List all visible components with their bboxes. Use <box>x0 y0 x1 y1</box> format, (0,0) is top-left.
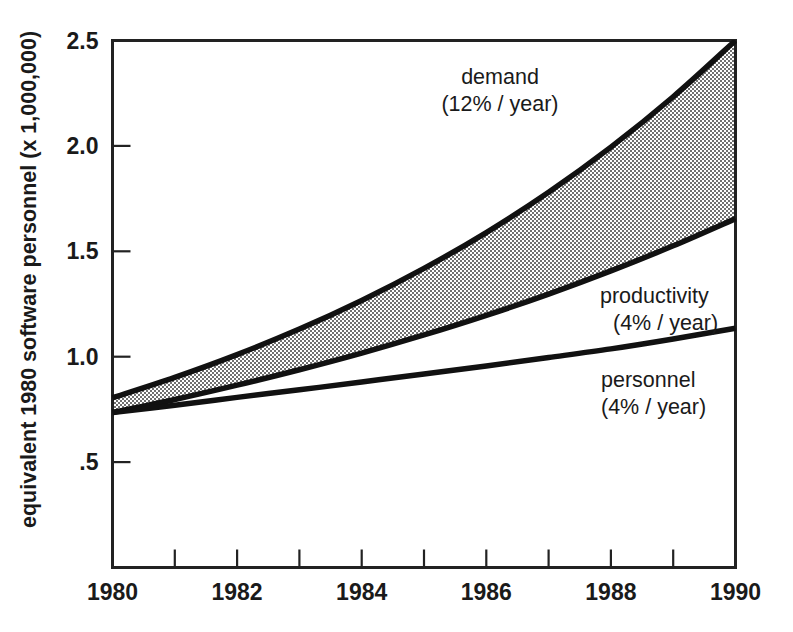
y-axis-tick-labels: .51.01.52.02.5 <box>67 28 99 476</box>
x-tick-label-1984: 1984 <box>336 579 387 605</box>
y-tick-label-.5: .5 <box>79 449 98 475</box>
y-tick-label-2.5: 2.5 <box>67 28 99 54</box>
x-axis-tick-labels: 198019821984198619881990 <box>87 579 761 605</box>
x-tick-label-1982: 1982 <box>212 579 263 605</box>
annotation-personnel-label: personnel <box>601 368 695 392</box>
x-tick-label-1988: 1988 <box>585 579 636 605</box>
y-tick-label-1.0: 1.0 <box>67 344 99 370</box>
y-tick-label-2.0: 2.0 <box>67 133 99 159</box>
chart-svg: .51.01.52.02.5 198019821984198619881990 … <box>0 0 793 632</box>
y-tick-label-1.5: 1.5 <box>67 238 99 264</box>
x-tick-label-1986: 1986 <box>461 579 512 605</box>
x-tick-label-1980: 1980 <box>87 579 138 605</box>
annotation-demand-label: demand <box>461 65 539 89</box>
annotation-personnel-rate: (4% / year) <box>601 395 706 419</box>
shaded-region-demand-vs-productivity <box>113 41 736 413</box>
chart-container: .51.01.52.02.5 198019821984198619881990 … <box>0 0 793 632</box>
x-axis-ticks <box>175 550 673 568</box>
y-axis-title: equivalent 1980 software personnel (x 1,… <box>17 31 41 528</box>
annotation-productivity-label: productivity <box>600 284 709 308</box>
annotation-productivity-rate: (4% / year) <box>613 311 718 335</box>
x-tick-label-1990: 1990 <box>710 579 761 605</box>
annotation-demand-rate: (12% / year) <box>441 92 558 116</box>
